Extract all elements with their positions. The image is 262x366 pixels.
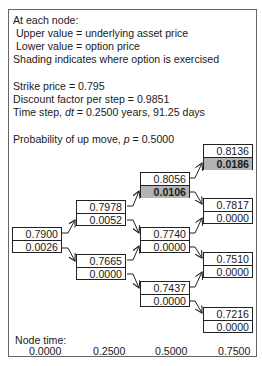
option-price: 0.0000: [204, 321, 252, 333]
option-price: 0.0000: [204, 266, 252, 278]
asset-price: 0.7740: [141, 228, 189, 241]
asset-price: 0.7437: [141, 282, 189, 295]
tree-node-exercised: 0.8056 0.0106: [140, 172, 190, 198]
option-price: 0.0000: [141, 295, 189, 307]
option-price: 0.0000: [141, 241, 189, 253]
tree-node: 0.7740 0.0000: [140, 227, 190, 253]
asset-price: 0.7665: [77, 255, 125, 268]
asset-price: 0.7216: [204, 308, 252, 321]
node-time-1: 0.2500: [93, 345, 125, 357]
option-price-exercised: 0.0106: [141, 186, 189, 198]
tree-node: 0.7665 0.0000: [76, 254, 126, 280]
asset-price: 0.7978: [77, 201, 125, 214]
option-price: 0.0000: [77, 268, 125, 280]
asset-price: 0.7900: [13, 228, 61, 241]
tree-node: 0.7978 0.0052: [76, 200, 126, 226]
asset-price: 0.7817: [204, 199, 252, 212]
tree-node-exercised: 0.8136 0.0186: [203, 144, 253, 170]
tree-node: 0.7817 0.0000: [203, 198, 253, 224]
tree-node: 0.7510 0.0000: [203, 252, 253, 278]
asset-price: 0.8056: [141, 173, 189, 186]
tree-node: 0.7437 0.0000: [140, 281, 190, 307]
option-price: 0.0000: [204, 212, 252, 224]
tree-node: 0.7900 0.0026: [12, 227, 62, 253]
node-time-0: 0.0000: [29, 345, 61, 357]
asset-price: 0.7510: [204, 253, 252, 266]
node-time-3: 0.7500: [218, 345, 250, 357]
option-price: 0.0026: [13, 241, 61, 253]
option-price: 0.0052: [77, 214, 125, 226]
node-time-2: 0.5000: [155, 345, 187, 357]
tree-node: 0.7216 0.0000: [203, 307, 253, 333]
option-price-exercised: 0.0186: [204, 158, 252, 170]
asset-price: 0.8136: [204, 145, 252, 158]
